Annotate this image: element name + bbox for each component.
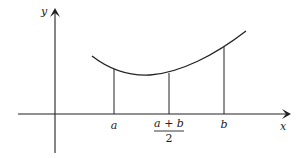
function-graph-diagram: y x a a + b 2 b <box>0 0 296 158</box>
function-curve <box>92 31 246 75</box>
marker-label-a: a <box>111 119 118 132</box>
y-axis <box>50 8 60 153</box>
midpoint-numerator: a + b <box>154 117 184 130</box>
marker-label-midpoint: a + b 2 <box>154 117 184 145</box>
midpoint-denominator: 2 <box>166 132 173 145</box>
y-axis-label: y <box>40 5 48 18</box>
x-axis-label: x <box>280 120 287 133</box>
marker-label-b: b <box>220 118 227 131</box>
